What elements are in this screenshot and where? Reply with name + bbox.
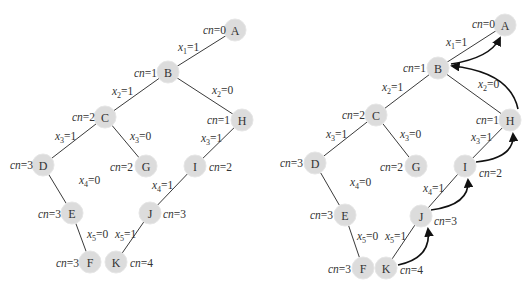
cn-label-D: cn=3 — [10, 159, 33, 171]
left-search-tree: x1=1x2=1x2=0x3=1x3=0x4=0x5=0x3=1x4=1x5=1… — [10, 19, 253, 273]
cn-label-G: cn=2 — [380, 161, 403, 173]
node-I: I — [454, 155, 476, 177]
svg-text:I: I — [463, 160, 467, 174]
edge-label-E-F: x5=0 — [86, 228, 109, 243]
node-H: H — [499, 109, 521, 131]
edge-label-C-D: x3=1 — [325, 128, 348, 143]
node-J: J — [410, 205, 432, 227]
edge-label-D-E: x4=0 — [349, 176, 372, 191]
edge-label-E-F: x5=0 — [356, 230, 379, 245]
svg-text:G: G — [142, 160, 151, 174]
edge-label-I-J: x4=1 — [422, 182, 445, 197]
node-H: H — [231, 109, 253, 131]
edge-E-F — [76, 223, 86, 251]
cn-label-I: cn=2 — [209, 161, 232, 173]
node-F: F — [352, 257, 374, 279]
node-K: K — [105, 251, 127, 273]
svg-text:H: H — [238, 114, 247, 128]
node-A: A — [224, 19, 246, 41]
cn-label-H: cn=1 — [207, 114, 230, 126]
node-D: D — [304, 152, 326, 174]
edge-label-J-K: x5=1 — [114, 228, 137, 243]
cn-label-A: cn=0 — [472, 18, 495, 30]
edge-label-C-D: x3=1 — [54, 130, 77, 145]
cn-label-I: cn=2 — [479, 167, 502, 179]
cn-label-F: cn=3 — [56, 257, 79, 269]
svg-text:C: C — [101, 111, 109, 125]
edge-D-E — [320, 173, 339, 206]
edge-label-H-I: x3=1 — [470, 131, 493, 146]
edge-label-A-B: x1=1 — [445, 36, 468, 51]
svg-text:G: G — [412, 160, 421, 174]
cn-label-A: cn=0 — [203, 24, 226, 36]
cn-label-B: cn=1 — [403, 62, 426, 74]
svg-text:A: A — [501, 19, 510, 33]
svg-text:K: K — [382, 262, 391, 276]
edge-label-B-H: x2=0 — [477, 78, 500, 93]
node-F: F — [79, 251, 101, 273]
edge-label-D-E: x4=0 — [78, 174, 101, 189]
svg-text:B: B — [434, 62, 442, 76]
cn-label-J: cn=3 — [434, 215, 457, 227]
node-I: I — [184, 155, 206, 177]
edge-label-B-H: x2=0 — [211, 84, 234, 99]
node-B: B — [157, 61, 179, 83]
node-J: J — [139, 202, 161, 224]
edge-label-C-G: x3=0 — [129, 130, 152, 145]
node-A: A — [494, 14, 516, 36]
node-G: G — [135, 155, 157, 177]
cn-label-K: cn=4 — [400, 264, 423, 276]
cn-label-K: cn=4 — [130, 257, 153, 269]
svg-text:C: C — [372, 109, 380, 123]
svg-text:F: F — [87, 256, 94, 270]
cn-label-E: cn=3 — [38, 208, 61, 220]
svg-text:E: E — [68, 207, 75, 221]
edge-label-C-G: x3=0 — [399, 128, 422, 143]
edge-D-E — [49, 174, 67, 203]
right-search-tree-backtracking: x1=1x2=1x2=0x3=1x3=0x4=0x5=0x3=1x4=1x5=1… — [280, 14, 521, 279]
svg-text:D: D — [39, 159, 48, 173]
cn-label-D: cn=3 — [280, 157, 303, 169]
node-C: C — [365, 104, 387, 126]
edge-label-H-I: x3=1 — [200, 132, 223, 147]
cn-label-F: cn=3 — [328, 263, 351, 275]
node-C: C — [94, 106, 116, 128]
diagram-canvas: x1=1x2=1x2=0x3=1x3=0x4=0x5=0x3=1x4=1x5=1… — [0, 0, 530, 291]
node-B: B — [427, 57, 449, 79]
cn-label-B: cn=1 — [134, 67, 157, 79]
cn-label-J: cn=3 — [163, 208, 186, 220]
cn-label-H: cn=1 — [476, 114, 499, 126]
svg-text:D: D — [311, 157, 320, 171]
svg-text:J: J — [148, 207, 153, 221]
node-D: D — [32, 154, 54, 176]
cn-label-C: cn=2 — [342, 109, 365, 121]
svg-text:I: I — [193, 160, 197, 174]
node-K: K — [375, 257, 397, 279]
svg-text:J: J — [419, 210, 424, 224]
svg-text:E: E — [341, 209, 348, 223]
node-E: E — [61, 202, 83, 224]
node-E: E — [334, 204, 356, 226]
svg-text:F: F — [360, 262, 367, 276]
svg-text:K: K — [112, 256, 121, 270]
edge-label-B-C: x2=1 — [381, 81, 404, 96]
cn-label-C: cn=2 — [72, 111, 95, 123]
svg-text:A: A — [231, 24, 240, 38]
cn-label-E: cn=3 — [310, 209, 333, 221]
svg-text:H: H — [506, 114, 515, 128]
node-G: G — [405, 155, 427, 177]
edge-label-B-C: x2=1 — [111, 85, 134, 100]
cn-label-G: cn=2 — [110, 161, 133, 173]
svg-text:B: B — [164, 66, 172, 80]
